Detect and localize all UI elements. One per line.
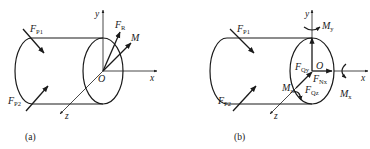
caption-a: (a) (25, 132, 36, 143)
label-z: z (273, 111, 278, 121)
label-fnx: FNx (312, 73, 328, 85)
label-mx: Mx (339, 88, 352, 100)
figure-canvas: FP1 FP2 FR M y x z O (a) (0, 0, 370, 149)
force-arrows (23, 29, 131, 111)
axes (60, 10, 157, 114)
label-fqz: FQz (304, 84, 319, 96)
label-x: x (149, 73, 155, 83)
label-fqy: FQy (294, 61, 310, 73)
label-fp1: FP1 (236, 23, 250, 35)
label-m: M (130, 32, 140, 43)
label-fp2: FP2 (7, 95, 21, 107)
label-fr: FR (114, 19, 126, 31)
force-fp2-arrow (26, 86, 48, 111)
label-y: y (304, 9, 310, 19)
caption-b: (b) (234, 132, 245, 143)
diagram-a: FP1 FP2 FR M y x z O (a) (7, 9, 157, 143)
label-origin: O (98, 73, 105, 84)
diagram-b: FP1 FP2 FQy FNx FQz My Mx Mz y x z O (b) (210, 9, 368, 143)
label-fp2: FP2 (217, 95, 231, 107)
label-x: x (360, 73, 366, 83)
z-axis (60, 71, 103, 114)
label-my: My (321, 20, 334, 32)
label-origin: O (316, 60, 323, 71)
label-y: y (94, 9, 100, 19)
label-fp1: FP1 (29, 23, 43, 35)
label-z: z (64, 111, 69, 121)
force-fp2-arrow (233, 86, 256, 111)
